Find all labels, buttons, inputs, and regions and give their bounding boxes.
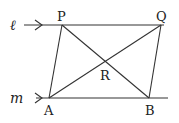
- point-Q-label: Q: [156, 9, 167, 24]
- line-l-label: ℓ: [10, 17, 16, 33]
- line-m-label: m: [10, 90, 23, 106]
- segment-QB: [149, 25, 161, 98]
- parallel-lines-diagram: ℓ m P Q A B R: [0, 0, 179, 123]
- point-P-label: P: [57, 9, 66, 24]
- segment-QA: [49, 25, 161, 98]
- point-A-label: A: [43, 103, 54, 118]
- point-B-label: B: [145, 103, 155, 118]
- point-R-label: R: [100, 68, 111, 83]
- segment-PA: [49, 25, 62, 98]
